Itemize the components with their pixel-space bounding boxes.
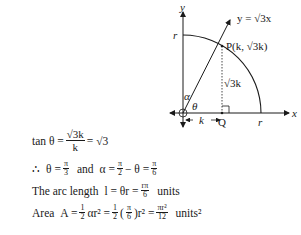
y-axis-label: y <box>179 1 185 13</box>
fraction: π3 <box>63 160 69 177</box>
theta-label: θ <box>192 100 198 112</box>
line-equation-label: y = √3x <box>237 12 272 24</box>
fraction: π6 <box>126 204 132 221</box>
fraction: π6 <box>151 160 157 177</box>
denominator: 2 <box>118 169 122 177</box>
fraction: rπ6 <box>141 182 150 199</box>
alpha-label: α <box>184 90 190 102</box>
x-axis-label: x <box>291 107 297 119</box>
denominator: 3 <box>64 169 68 177</box>
fraction: πr²12 <box>156 204 167 221</box>
open-paren: ( <box>120 207 124 219</box>
denominator: 2 <box>80 213 84 221</box>
numerator: √3k <box>66 128 85 141</box>
arc-length-eq: l = θr = <box>104 185 138 197</box>
line-y-sqrt3x <box>183 20 230 113</box>
denominator: 6 <box>143 191 147 199</box>
tan-lhs: tan θ = <box>32 135 64 147</box>
arc-length-line: The arc length l = θr = rπ6 units <box>32 182 180 199</box>
tan-rhs: = √3 <box>87 135 108 147</box>
area-text: Area <box>32 207 54 219</box>
radius-label-top: r <box>173 29 178 41</box>
theta-eq: θ = <box>46 163 61 175</box>
denominator: 12 <box>158 213 166 221</box>
and-word: and <box>77 163 94 175</box>
point-p-label: P(k, √3k) <box>226 40 268 53</box>
arc-length-text: The arc length <box>32 185 98 197</box>
denominator: 6 <box>152 169 156 177</box>
minus-theta: − θ = <box>125 163 149 175</box>
fraction: π2 <box>117 160 123 177</box>
point-q-label: Q <box>218 116 226 128</box>
fraction: √3k k <box>66 128 85 153</box>
fraction: 12 <box>112 204 118 221</box>
area-line: Area A = 12 αr² = 12 (π6) r² = πr²12 uni… <box>32 204 201 221</box>
denominator: 2 <box>113 213 117 221</box>
denominator: k <box>73 141 79 153</box>
segment-vertical-label: √3k <box>224 77 242 89</box>
point-p <box>221 45 224 48</box>
sector-diagram: y x r r y = √3x P(k, √3k) √3k Q k θ α <box>0 0 301 130</box>
area-eq: A = <box>60 207 77 219</box>
tan-theta-line: tan θ = √3k k = √3 <box>32 128 108 153</box>
alpha-r2: αr² = <box>87 207 110 219</box>
denominator: 6 <box>127 213 131 221</box>
angles-line: ∴ θ = π3 and α = π2 − θ = π6 <box>32 160 159 177</box>
right-angle-mark <box>222 106 229 113</box>
units: units² <box>176 207 202 219</box>
point-q <box>221 112 224 115</box>
r-squared: r² = <box>138 207 155 219</box>
k-label: k <box>199 114 205 126</box>
fraction: 12 <box>79 204 85 221</box>
therefore-symbol: ∴ <box>32 162 40 176</box>
units: units <box>157 185 179 197</box>
alpha-eq: α = <box>100 163 115 175</box>
radius-label-right: r <box>258 116 263 128</box>
